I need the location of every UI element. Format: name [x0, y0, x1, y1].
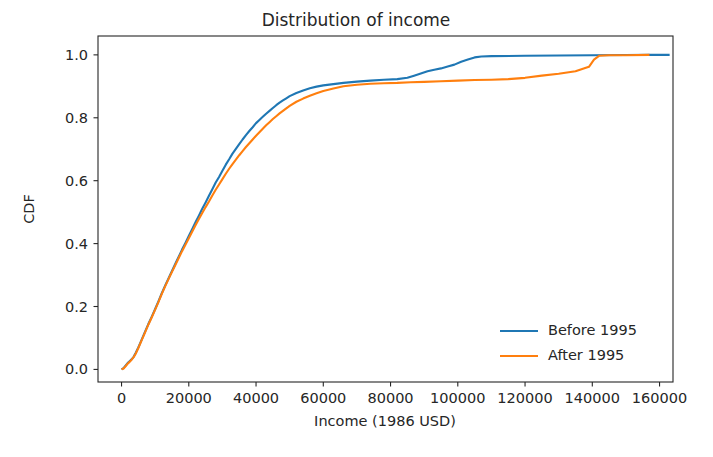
chart-legend[interactable]: Before 1995After 1995: [500, 322, 637, 363]
y-tick-label: 0.0: [65, 361, 88, 377]
legend-label-0: Before 1995: [548, 322, 637, 338]
y-tick-label: 1.0: [65, 47, 88, 63]
x-tick-label: 80000: [367, 390, 413, 406]
y-tick-label: 0.2: [65, 299, 88, 315]
x-tick-label: 60000: [300, 390, 346, 406]
legend-label-1: After 1995: [548, 347, 624, 363]
y-tick-label: 0.6: [65, 173, 88, 189]
x-tick-label: 20000: [166, 390, 212, 406]
x-tick-label: 0: [117, 390, 126, 406]
y-axis-ticks: 0.00.20.40.60.81.0: [65, 47, 98, 378]
figure-canvas: Distribution of income 02000040000600008…: [0, 0, 713, 457]
x-tick-label: 160000: [632, 390, 687, 406]
x-tick-label: 100000: [430, 390, 485, 406]
x-tick-label: 120000: [497, 390, 552, 406]
y-tick-label: 0.8: [65, 110, 88, 126]
y-axis-label: CDF: [21, 194, 37, 224]
x-axis-label: Income (1986 USD): [314, 413, 456, 429]
x-axis-ticks: 0200004000060000800001000001200001400001…: [117, 382, 687, 406]
x-tick-label: 40000: [233, 390, 279, 406]
x-tick-label: 140000: [565, 390, 620, 406]
y-tick-label: 0.4: [65, 236, 88, 252]
chart-title: Distribution of income: [262, 10, 451, 30]
income-cdf-chart: Distribution of income 02000040000600008…: [0, 0, 713, 457]
